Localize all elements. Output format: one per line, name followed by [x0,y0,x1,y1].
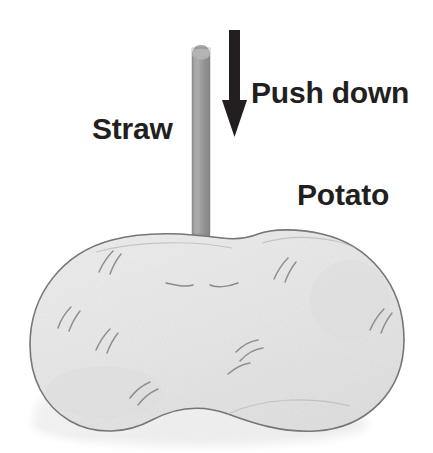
diagram-illustration [0,0,433,453]
straw-label: Straw [92,114,173,144]
potato-body [30,230,404,431]
push-down-arrow [222,30,247,137]
figure-canvas: Push down Straw Potato [0,0,433,453]
potato-label: Potato [297,180,389,210]
straw [192,45,210,234]
push-down-label: Push down [251,78,409,108]
